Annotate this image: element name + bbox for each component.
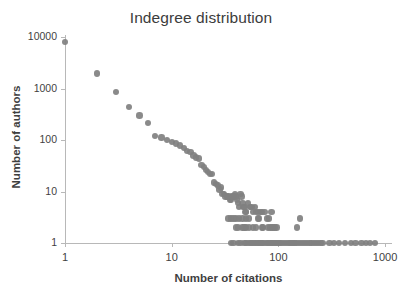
data-point (158, 134, 164, 140)
data-point (209, 171, 215, 177)
data-point (270, 240, 276, 246)
data-point (259, 240, 265, 246)
data-point (313, 240, 319, 246)
data-point (336, 240, 342, 246)
data-point (253, 209, 259, 215)
data-point (243, 209, 249, 215)
data-point (253, 240, 259, 246)
x-tick-mark (278, 243, 279, 247)
data-point (152, 133, 158, 139)
data-point (207, 171, 213, 177)
data-point (232, 191, 238, 197)
chart-title: Indegree distribution (0, 9, 402, 27)
data-point (181, 145, 187, 151)
data-point (260, 240, 266, 246)
data-point (225, 215, 231, 221)
data-point (198, 162, 204, 168)
data-point (213, 181, 219, 187)
data-point (243, 240, 249, 246)
x-tick-mark (385, 243, 386, 247)
data-point (203, 167, 209, 173)
data-point (193, 154, 199, 160)
data-point (268, 209, 274, 215)
data-point (230, 240, 236, 246)
data-point (256, 215, 262, 221)
data-point (250, 224, 256, 230)
data-point (317, 240, 323, 246)
y-tick-mark (61, 89, 65, 90)
data-point (201, 164, 207, 170)
data-point (238, 193, 244, 199)
data-point (173, 140, 179, 146)
data-point (187, 149, 193, 155)
data-point (177, 142, 183, 148)
data-point (219, 191, 225, 197)
chart-container: Indegree distribution 110100100010000 11… (0, 0, 402, 298)
data-point (230, 193, 236, 199)
data-point (190, 152, 196, 158)
data-point (247, 204, 253, 210)
data-point (221, 191, 227, 197)
data-point (233, 215, 239, 221)
data-point (257, 240, 263, 246)
data-point (145, 120, 151, 126)
data-point (229, 193, 235, 199)
data-point (228, 215, 234, 221)
data-point (247, 240, 253, 246)
data-point (276, 240, 282, 246)
y-tick-mark (61, 37, 65, 38)
data-point (252, 240, 258, 246)
data-point (274, 240, 280, 246)
data-point (224, 193, 230, 199)
data-point (304, 240, 310, 246)
data-point (319, 240, 325, 246)
data-point (342, 240, 348, 246)
data-point (255, 240, 261, 246)
data-point (246, 215, 252, 221)
y-tick-label: 10000 (28, 31, 57, 42)
data-point (372, 240, 378, 246)
data-point (237, 191, 243, 197)
data-point (255, 209, 261, 215)
data-point (294, 224, 300, 230)
y-tick-label: 1000 (34, 83, 57, 94)
data-point (205, 169, 211, 175)
data-point (236, 204, 242, 210)
caption-strip (0, 288, 402, 298)
data-point (228, 240, 234, 246)
data-point (245, 200, 251, 206)
data-point (248, 204, 254, 210)
data-point (262, 240, 268, 246)
data-point (291, 240, 297, 246)
data-point (218, 184, 224, 190)
y-tick-mark (61, 140, 65, 141)
data-point (348, 240, 354, 246)
data-point (211, 179, 217, 185)
data-point (272, 240, 278, 246)
data-point (271, 224, 277, 230)
data-point (235, 200, 241, 206)
data-point (269, 240, 275, 246)
data-point (94, 70, 100, 76)
data-point (252, 204, 258, 210)
y-axis-line (65, 35, 66, 244)
data-point (326, 240, 332, 246)
data-point (282, 240, 288, 246)
data-point (302, 240, 308, 246)
data-point (255, 215, 261, 221)
data-point (289, 240, 295, 246)
x-tick-mark (65, 243, 66, 247)
data-point (264, 215, 270, 221)
data-point (306, 240, 312, 246)
data-point (267, 224, 273, 230)
data-point (363, 240, 369, 246)
data-point (278, 240, 284, 246)
x-tick-label: 100 (248, 252, 308, 263)
x-axis-line (65, 243, 392, 244)
y-tick-label: 100 (39, 134, 57, 145)
x-tick-label: 1 (35, 252, 95, 263)
data-point (225, 193, 231, 199)
data-point (245, 240, 251, 246)
data-point (113, 89, 119, 95)
y-tick-mark (61, 243, 65, 244)
